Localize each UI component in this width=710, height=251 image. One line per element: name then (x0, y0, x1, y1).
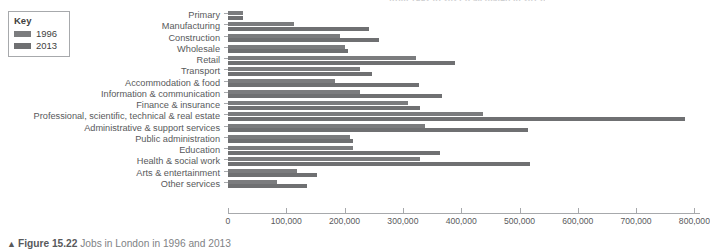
bar-2013 (228, 106, 420, 110)
category-axis-labels: PrimaryManufacturingConstructionWholesal… (0, 10, 224, 190)
bar-1996 (228, 34, 340, 38)
axis-tick-label: 0 (226, 216, 231, 226)
bar-2013 (228, 173, 317, 177)
axis-tick-label: 500,000 (504, 216, 535, 226)
bar-row (228, 44, 700, 55)
axis-tick-label: 800,000 (679, 216, 710, 226)
axis-tick (461, 208, 462, 214)
bar-row (228, 168, 700, 179)
axis-tick-label: 300,000 (387, 216, 418, 226)
category-label: Information & communication (0, 89, 224, 100)
bar-1996 (228, 112, 483, 116)
category-label: Administrative & support services (0, 123, 224, 134)
bar-1996 (228, 90, 360, 94)
bar-2013 (228, 38, 379, 42)
axis-tick (694, 208, 695, 214)
bar-1996 (228, 169, 297, 173)
bar-2013 (228, 16, 243, 20)
bar-row (228, 123, 700, 134)
figure-caption: ▲Figure 15.22 Jobs in London in 1996 and… (7, 238, 231, 249)
bar-row (228, 21, 700, 32)
axis-tick (578, 208, 579, 214)
category-label: Retail (0, 55, 224, 66)
category-label: Construction (0, 33, 224, 44)
bar-row (228, 111, 700, 122)
caption-triangle-icon: ▲ (7, 239, 16, 249)
clipped-page-title: from 1992 to 2021 (calculated in 2013) (389, 0, 545, 1)
bar-2013 (228, 94, 442, 98)
category-label: Primary (0, 10, 224, 21)
axis-tick-label: 100,000 (271, 216, 302, 226)
bar-row (228, 89, 700, 100)
bar-2013 (228, 139, 353, 143)
bar-1996 (228, 135, 350, 139)
bar-1996 (228, 101, 408, 105)
bar-1996 (228, 67, 360, 71)
bar-1996 (228, 45, 345, 49)
axis-tick (228, 208, 229, 214)
bar-1996 (228, 180, 277, 184)
axis-tick (520, 208, 521, 214)
axis-tick (345, 208, 346, 214)
category-label: Transport (0, 66, 224, 77)
plot-area (228, 10, 700, 213)
category-label: Arts & entertainment (0, 168, 224, 179)
bar-row (228, 55, 700, 66)
bar-2013 (228, 27, 369, 31)
bar-2013 (228, 72, 372, 76)
category-label: Manufacturing (0, 21, 224, 32)
bar-2013 (228, 83, 419, 87)
category-label: Professional, scientific, technical & re… (0, 111, 224, 122)
bar-row (228, 78, 700, 89)
bar-row (228, 156, 700, 167)
caption-figure-number: Figure 15.22 (18, 238, 77, 249)
category-label: Finance & insurance (0, 100, 224, 111)
axis-tick-label: 700,000 (621, 216, 652, 226)
bar-2013 (228, 162, 530, 166)
category-label: Other services (0, 179, 224, 190)
category-label: Accommodation & food (0, 78, 224, 89)
bar-1996 (228, 11, 243, 15)
bar-2013 (228, 49, 348, 53)
axis-tick (403, 208, 404, 214)
bar-1996 (228, 79, 335, 83)
category-label: Education (0, 145, 224, 156)
axis-tick (286, 208, 287, 214)
bar-row (228, 33, 700, 44)
bar-row (228, 66, 700, 77)
category-label: Public administration (0, 134, 224, 145)
bar-1996 (228, 146, 353, 150)
bar-2013 (228, 117, 685, 121)
value-axis-line (228, 213, 700, 214)
bar-row (228, 145, 700, 156)
bar-row (228, 100, 700, 111)
bar-row (228, 134, 700, 145)
bar-1996 (228, 22, 294, 26)
axis-tick (636, 208, 637, 214)
bar-row (228, 10, 700, 21)
axis-tick-label: 400,000 (446, 216, 477, 226)
bar-1996 (228, 56, 416, 60)
axis-tick-label: 200,000 (329, 216, 360, 226)
bar-1996 (228, 124, 425, 128)
bar-1996 (228, 157, 420, 161)
caption-text: Jobs in London in 1996 and 2013 (77, 238, 231, 249)
bar-chart: PrimaryManufacturingConstructionWholesal… (0, 10, 703, 222)
category-label: Health & social work (0, 156, 224, 167)
bar-2013 (228, 151, 440, 155)
axis-tick-label: 600,000 (562, 216, 593, 226)
bar-2013 (228, 128, 528, 132)
category-label: Wholesale (0, 44, 224, 55)
bar-2013 (228, 184, 307, 188)
bar-row (228, 179, 700, 190)
bar-2013 (228, 61, 455, 65)
